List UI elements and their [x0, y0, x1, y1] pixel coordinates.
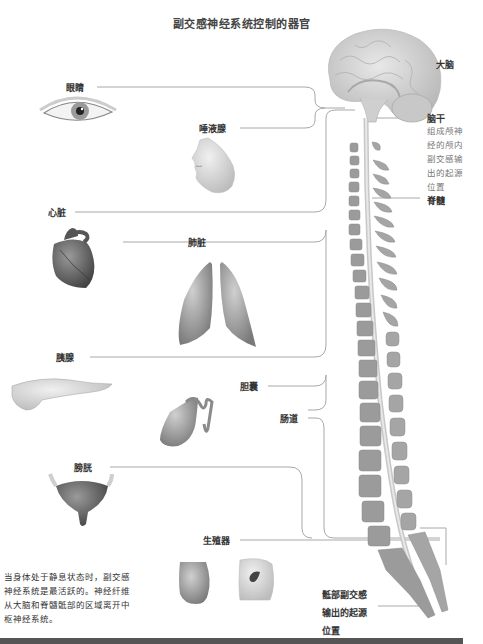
label-intestine: 肠道 — [280, 412, 298, 425]
heart-illustration — [52, 228, 94, 288]
label-genitals: 生殖器 — [203, 534, 230, 547]
genitals-illustration — [179, 559, 274, 604]
diagram-art — [0, 0, 483, 644]
label-pancreas: 胰腺 — [56, 351, 74, 364]
gallbladder-illustration — [160, 398, 212, 447]
label-bladder: 膀胱 — [74, 461, 92, 474]
salivary-gland-illustration — [192, 138, 235, 193]
pancreas-illustration — [12, 379, 112, 410]
label-sacral-origin: 骶部副交感 输出的起源 位置 — [322, 586, 367, 640]
label-brain: 大脑 — [436, 58, 454, 71]
label-eye: 眼睛 — [66, 81, 84, 94]
label-salivary-gland: 唾液腺 — [199, 122, 226, 135]
bladder-illustration — [50, 474, 112, 526]
bottom-bar — [0, 638, 463, 644]
label-lungs: 肺脏 — [188, 236, 206, 249]
caption-text: 当身体处于静息状态时，副交感 神经系统是最活跃的。神经纤维 从大脑和脊髓骶部的区… — [4, 570, 174, 626]
label-heart: 心脏 — [48, 206, 66, 219]
brainstem-note: 组成颅神 经的颅内 副交感输 出的起源 位置 — [427, 124, 463, 194]
lungs-illustration — [179, 262, 256, 347]
eye-illustration — [40, 98, 116, 120]
label-gallbladder: 胆囊 — [240, 380, 258, 393]
label-spinal-cord: 脊髓 — [427, 194, 445, 207]
brain-illustration — [328, 29, 440, 122]
